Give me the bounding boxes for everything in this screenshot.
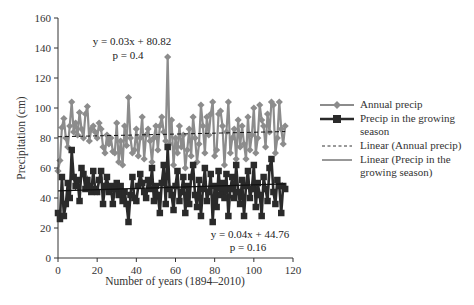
data-point: [133, 125, 140, 132]
data-point: [63, 201, 69, 208]
legend-item-linear-annual: Linear (Annual precip): [320, 139, 474, 152]
data-point: [209, 98, 216, 105]
square-line-icon: [320, 112, 354, 125]
data-point: [253, 204, 260, 211]
data-point: [113, 119, 120, 126]
data-point: [268, 156, 275, 163]
data-point: [154, 146, 161, 153]
legend-item-annual: Annual precip: [320, 98, 474, 111]
data-point: [258, 213, 265, 220]
data-point: [243, 183, 250, 190]
data-point: [182, 210, 189, 217]
data-point: [256, 192, 263, 199]
data-point: [256, 101, 263, 108]
data-point: [242, 155, 249, 162]
data-point: [98, 168, 105, 175]
data-point: [235, 116, 242, 123]
data-point: [188, 152, 195, 159]
data-point: [176, 122, 183, 129]
legend-label: Linear (Annual precip): [360, 139, 474, 152]
data-point: [68, 147, 75, 154]
data-point: [229, 174, 236, 181]
data-point: [84, 103, 91, 110]
data-point: [56, 157, 63, 164]
series-annual-precip: [54, 53, 288, 174]
y-tick-label: 60: [40, 162, 52, 174]
data-point: [76, 198, 83, 205]
data-point: [245, 168, 252, 175]
x-tick-label: 20: [92, 264, 104, 276]
data-point: [184, 183, 191, 190]
data-point: [96, 119, 103, 126]
data-point: [139, 180, 146, 187]
data-point: [209, 219, 216, 226]
annual-equation: y = 0.03x + 80.82: [93, 35, 171, 47]
data-point: [162, 201, 169, 208]
data-point: [67, 195, 74, 202]
data-point: [221, 161, 228, 168]
data-point: [159, 180, 166, 187]
data-point: [262, 186, 269, 193]
data-point: [202, 165, 209, 172]
data-point: [219, 122, 226, 129]
data-point: [221, 195, 228, 202]
y-axis-title: Precipitation (cm): [15, 96, 28, 180]
legend-label: Precip in the growing season: [360, 112, 474, 138]
data-point: [272, 149, 279, 156]
data-point: [59, 174, 66, 181]
data-point: [65, 180, 72, 187]
solid-line-icon: [320, 153, 354, 166]
data-point: [158, 113, 165, 120]
data-point: [117, 183, 124, 190]
data-point: [262, 143, 269, 150]
data-point: [213, 204, 220, 211]
data-point: [121, 189, 128, 196]
data-point: [139, 113, 146, 120]
data-point: [244, 113, 251, 120]
data-point: [274, 177, 281, 184]
data-point: [104, 174, 111, 181]
data-point: [278, 210, 285, 217]
x-tick-label: 100: [246, 264, 263, 276]
data-point: [101, 149, 108, 156]
growing-p-value: p = 0.16: [230, 241, 267, 253]
data-point: [231, 195, 238, 202]
data-point: [176, 198, 183, 205]
data-point: [78, 165, 85, 172]
data-point: [96, 177, 103, 184]
data-point: [135, 152, 142, 159]
data-point: [227, 149, 234, 156]
data-point: [86, 137, 93, 144]
data-point: [237, 201, 244, 208]
annual-p-value: p = 0.4: [113, 49, 144, 61]
data-point: [208, 171, 215, 178]
data-point: [227, 186, 234, 193]
data-point: [196, 177, 203, 184]
data-point: [72, 183, 79, 190]
dashed-line-icon: [320, 139, 354, 152]
data-point: [225, 98, 232, 105]
data-point: [233, 155, 240, 162]
data-point: [211, 152, 218, 159]
data-point: [141, 189, 148, 196]
data-point: [270, 189, 277, 196]
data-point: [233, 162, 240, 169]
data-point: [252, 149, 259, 156]
data-point: [137, 171, 144, 178]
legend-item-linear-growing: Linear (Precip in the growing season): [320, 153, 474, 179]
x-tick-label: 0: [55, 264, 61, 276]
data-point: [148, 158, 155, 165]
data-point: [280, 140, 287, 147]
data-point: [266, 165, 273, 172]
data-point: [86, 183, 93, 190]
data-point: [161, 162, 168, 169]
data-point: [239, 177, 246, 184]
data-point: [276, 98, 283, 105]
data-point: [235, 189, 242, 196]
data-point: [201, 149, 208, 156]
data-point: [282, 186, 289, 193]
data-point: [61, 213, 68, 220]
data-point: [182, 164, 189, 171]
diamond-line-icon: [320, 98, 354, 111]
data-point: [180, 174, 187, 181]
